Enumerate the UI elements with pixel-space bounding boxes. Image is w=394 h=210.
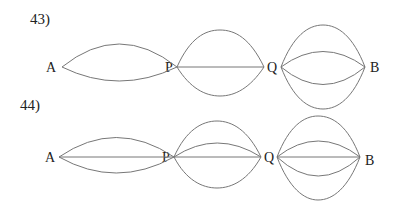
edge-p-q-upper — [177, 30, 264, 67]
edge-q-b-inner-lower — [281, 67, 365, 85]
vertex-label-b: B — [365, 153, 374, 168]
edge-q-b-outer-lower — [277, 157, 360, 200]
edge-q-b-inner-upper — [277, 141, 360, 157]
edge-p-q-lower — [174, 157, 261, 188]
vertex-label-q: Q — [267, 60, 277, 75]
vertex-label-q: Q — [264, 150, 274, 165]
edge-a-p-lower — [59, 157, 174, 173]
edge-q-b-inner-upper — [281, 52, 365, 68]
figure: 43) A P Q B 44) A P Q B — [0, 0, 394, 210]
edge-p-q-inner-upper — [174, 143, 261, 157]
graph-diagrams: 43) A P Q B 44) A P Q B — [0, 0, 394, 210]
problem-number: 43) — [30, 11, 50, 28]
vertex-label-a: A — [45, 150, 56, 165]
problem-43: 43) A P Q B — [30, 11, 379, 109]
edge-q-b-outer-upper — [277, 116, 360, 157]
edge-q-b-outer-upper — [281, 25, 365, 67]
edge-q-b-inner-lower — [277, 157, 360, 176]
edge-p-q-lower — [177, 67, 264, 96]
edge-a-p-upper — [62, 44, 177, 67]
problem-number: 44) — [20, 97, 40, 114]
vertex-label-p: P — [165, 60, 173, 75]
edge-p-q-outer-upper — [174, 121, 261, 157]
problem-44: 44) A P Q B — [20, 97, 374, 200]
edge-q-b-outer-lower — [281, 67, 365, 109]
vertex-label-a: A — [46, 60, 57, 75]
edge-a-p-lower — [62, 67, 177, 81]
edge-a-p-upper — [59, 138, 174, 158]
vertex-label-b: B — [370, 60, 379, 75]
